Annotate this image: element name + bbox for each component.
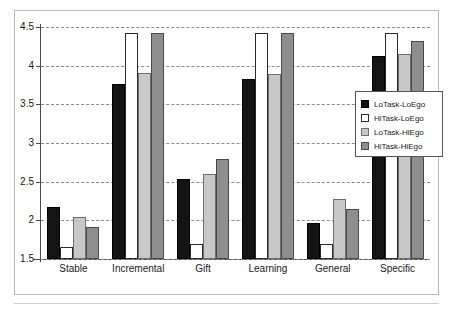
bar: [86, 227, 99, 259]
bar: [112, 84, 125, 259]
legend-swatch-icon: [361, 142, 369, 150]
legend-item: LoTask-LoEgo: [361, 97, 442, 111]
legend-item-label: HiTask-HiEgo: [374, 142, 422, 151]
bar: [216, 159, 229, 259]
bar: [268, 74, 281, 259]
bar: [125, 33, 138, 259]
bar: [190, 244, 203, 259]
bar: [255, 33, 268, 259]
bar: [242, 79, 255, 259]
legend-rows: LoTask-LoEgoHiTask-LoEgoLoTask-HiEgoHiTa…: [361, 97, 442, 153]
legend-item-label: LoTask-LoEgo: [374, 100, 425, 109]
figure: 4.543.532.521.5 StableIncrementalGiftLea…: [0, 0, 453, 315]
bar: [307, 223, 320, 259]
legend-swatch-icon: [361, 114, 369, 122]
bar: [151, 33, 164, 259]
legend-item: HiTask-HiEgo: [361, 139, 442, 153]
bar: [333, 199, 346, 259]
x-axis-category-label: Stable: [41, 263, 106, 275]
bar: [281, 33, 294, 259]
x-axis-category-label: General: [300, 263, 365, 275]
legend: LoTask-LoEgoHiTask-LoEgoLoTask-HiEgoHiTa…: [355, 91, 443, 157]
bar: [320, 244, 333, 259]
legend-swatch-icon: [361, 128, 369, 136]
bar: [372, 56, 385, 259]
bar: [138, 73, 151, 259]
x-axis-category-label: Learning: [236, 263, 301, 275]
bar: [177, 179, 190, 259]
bar: [73, 217, 86, 259]
x-axis-category-label: Specific: [365, 263, 430, 275]
bar: [346, 209, 359, 259]
legend-item: LoTask-HiEgo: [361, 125, 442, 139]
legend-item-label: HiTask-LoEgo: [374, 114, 424, 123]
footer-rule: [14, 303, 439, 304]
x-axis-category-label: Incremental: [106, 263, 171, 275]
bar: [60, 247, 73, 259]
legend-item-label: LoTask-HiEgo: [374, 128, 424, 137]
plot-area: 4.543.532.521.5 StableIncrementalGiftLea…: [0, 0, 453, 315]
x-axis-category-label: Gift: [171, 263, 236, 275]
legend-item: HiTask-LoEgo: [361, 111, 442, 125]
bar: [203, 174, 216, 259]
legend-swatch-icon: [361, 100, 369, 108]
bar: [47, 207, 60, 259]
